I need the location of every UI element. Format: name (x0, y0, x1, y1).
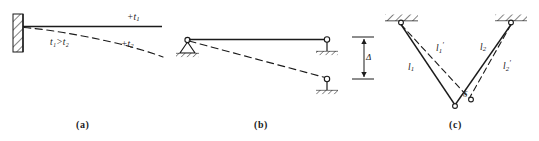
beam-deflected-a (24, 28, 163, 58)
joint-original-c (453, 104, 458, 109)
panel-b-group (176, 37, 374, 94)
fixed-wall-support-a (13, 14, 23, 52)
label-member-l1-c: l1 (408, 63, 414, 73)
caption-panel-b: (b) (254, 119, 268, 130)
pin-support-b-left (176, 37, 199, 57)
caption-panel-a: (a) (76, 119, 89, 130)
label-member-l2-prime-c: l2′ (503, 61, 511, 72)
panel-a-group (13, 14, 163, 57)
label-temperature-top-a: +t1 (127, 13, 140, 23)
label-temperature-inequality-a: t₁>t₂ (50, 38, 69, 48)
roller-support-b-settled (316, 76, 338, 94)
caption-panel-c: (c) (449, 119, 462, 130)
label-joint-displacement-delta-c: δ (463, 90, 467, 99)
joint-displaced-c (469, 97, 474, 102)
member-l1-prime-c (401, 25, 469, 99)
beam-deflected-b (189, 41, 327, 78)
ceiling-support-c-left (385, 15, 418, 25)
label-member-l2-c: l2 (480, 43, 486, 53)
figure-root: +t1 +t2 t₁>t₂ (a) Δ (b) l1 l1′ l2 l2′ δ … (0, 0, 539, 141)
ceiling-support-c-right (495, 15, 527, 25)
label-settlement-delta-b: Δ (366, 53, 371, 62)
label-temperature-bottom-a: +t2 (121, 40, 134, 50)
label-member-l1-prime-c: l1′ (436, 43, 444, 54)
